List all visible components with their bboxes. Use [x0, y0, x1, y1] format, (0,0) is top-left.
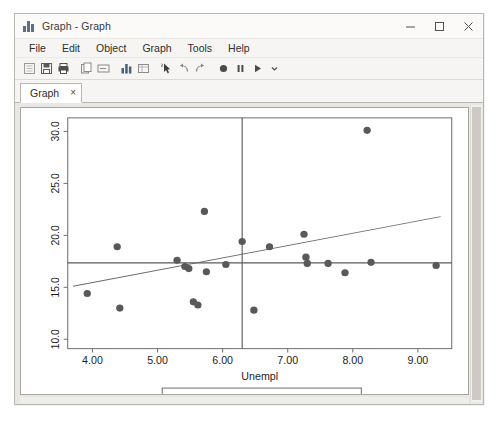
horizontal-spacer	[20, 397, 469, 403]
grid-edit-button[interactable]	[135, 60, 152, 78]
menu-label-edit: Edit	[62, 42, 80, 54]
new-icon	[23, 62, 36, 75]
window-controls	[396, 14, 483, 39]
play-button[interactable]	[249, 60, 266, 78]
data-point[interactable]	[194, 301, 201, 308]
undo-icon	[177, 62, 190, 75]
data-point[interactable]	[341, 269, 348, 276]
more-button[interactable]	[266, 60, 283, 78]
rename-button[interactable]	[95, 60, 112, 78]
title-bar: Graph - Graph	[15, 14, 483, 39]
menu-item-edit[interactable]: Edit	[55, 41, 87, 56]
maximize-icon	[434, 21, 445, 32]
pause-button[interactable]	[232, 60, 249, 78]
tab-strip: Graph ×	[15, 80, 483, 103]
save-button[interactable]	[38, 60, 55, 78]
x-tick-label-5: 9.00	[408, 355, 429, 367]
x-tick-label-4: 8.00	[342, 355, 363, 367]
legend-label-fitted-values: Fitted values	[298, 393, 362, 394]
record-button[interactable]	[215, 60, 232, 78]
pointer-tool-button[interactable]	[158, 60, 175, 78]
data-point[interactable]	[302, 254, 309, 261]
close-button[interactable]	[454, 14, 483, 39]
data-point[interactable]	[116, 305, 123, 312]
chevron-down-icon	[270, 64, 279, 73]
data-point[interactable]	[203, 268, 210, 275]
menu-item-tools[interactable]: Tools	[181, 41, 220, 56]
x-tick-label-0: 4.00	[82, 355, 103, 367]
menu-label-help: Help	[228, 42, 250, 54]
menu-item-help[interactable]: Help	[221, 41, 257, 56]
data-point[interactable]	[84, 290, 91, 297]
data-point[interactable]	[363, 127, 370, 134]
data-point[interactable]	[185, 265, 192, 272]
data-point[interactable]	[173, 257, 180, 264]
data-point[interactable]	[239, 238, 246, 245]
copy-button[interactable]	[78, 60, 95, 78]
menu-item-object[interactable]: Object	[89, 41, 133, 56]
menu-bar: File Edit Object Graph Tools Help	[15, 39, 483, 58]
grid-edit-icon	[137, 62, 150, 75]
print-button[interactable]	[55, 60, 72, 78]
data-point[interactable]	[324, 260, 331, 267]
menu-item-graph[interactable]: Graph	[135, 41, 178, 56]
print-icon	[57, 62, 70, 75]
minimize-icon	[405, 21, 416, 32]
rename-icon	[97, 62, 110, 75]
tab-graph-label: Graph	[30, 87, 59, 99]
plot-frame	[68, 118, 452, 349]
pause-icon	[234, 62, 247, 75]
data-point[interactable]	[201, 208, 208, 215]
tab-close-icon[interactable]: ×	[70, 88, 76, 98]
tab-graph[interactable]: Graph ×	[20, 83, 82, 103]
data-point[interactable]	[222, 261, 229, 268]
scatter-plot: 10.015.020.025.030.04.005.006.007.008.00…	[21, 108, 468, 394]
toolbar	[15, 58, 483, 80]
new-button[interactable]	[21, 60, 38, 78]
x-axis-title: Unempl	[241, 370, 278, 382]
y-tick-label-3: 25.0	[48, 173, 60, 193]
start-graph-editor-button[interactable]	[118, 60, 135, 78]
graph-window: Graph - Graph File Edit Object Graph Too…	[14, 13, 484, 405]
save-icon	[40, 62, 53, 75]
start-graph-editor-icon	[120, 62, 133, 75]
y-tick-label-2: 20.0	[48, 225, 60, 245]
pointer-tool-icon	[160, 62, 173, 75]
minimize-button[interactable]	[396, 14, 425, 39]
y-tick-label-0: 10.0	[48, 329, 60, 349]
legend-label-govtasst: GovtAsst	[186, 393, 231, 394]
data-point[interactable]	[250, 307, 257, 314]
fitted-values-line	[73, 217, 441, 287]
record-icon	[217, 62, 230, 75]
redo-icon	[194, 62, 207, 75]
document-area: 10.015.020.025.030.04.005.006.007.008.00…	[15, 103, 483, 404]
menu-label-file: File	[29, 42, 46, 54]
x-tick-label-3: 7.00	[277, 355, 298, 367]
x-tick-label-2: 6.00	[212, 355, 233, 367]
data-point[interactable]	[432, 262, 439, 269]
graph-canvas: 10.015.020.025.030.04.005.006.007.008.00…	[20, 107, 469, 395]
maximize-button[interactable]	[425, 14, 454, 39]
bar-chart-icon	[23, 20, 36, 32]
play-icon	[251, 62, 264, 75]
data-point[interactable]	[367, 259, 374, 266]
x-tick-label-1: 5.00	[147, 355, 168, 367]
menu-item-file[interactable]: File	[22, 41, 53, 56]
y-tick-label-1: 15.0	[48, 277, 60, 297]
redo-button[interactable]	[192, 60, 209, 78]
data-point[interactable]	[300, 231, 307, 238]
data-point[interactable]	[114, 243, 121, 250]
data-point[interactable]	[266, 243, 273, 250]
undo-button[interactable]	[175, 60, 192, 78]
copy-icon	[80, 62, 93, 75]
vertical-scrollbar[interactable]	[470, 105, 482, 402]
data-point[interactable]	[304, 260, 311, 267]
menu-label-tools: Tools	[188, 42, 213, 54]
vertical-scrollbar-thumb[interactable]	[472, 107, 481, 400]
window-title: Graph - Graph	[42, 20, 111, 32]
y-tick-label-4: 30.0	[48, 121, 60, 141]
menu-label-object: Object	[96, 42, 126, 54]
close-icon	[463, 21, 474, 32]
menu-label-graph: Graph	[142, 42, 171, 54]
